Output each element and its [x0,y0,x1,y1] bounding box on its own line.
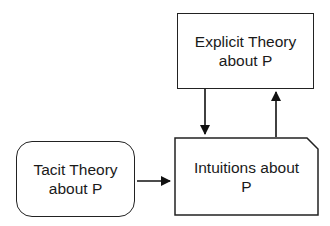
tacit-theory-label-line2: about P [49,179,102,198]
tacit-theory-label-line1: Tacit Theory [33,160,117,179]
tacit-theory-node: Tacit Theory about P [16,141,135,217]
intuitions-node: Intuitions about P [174,137,319,216]
intuitions-label-line1: Intuitions about [194,158,299,177]
intuitions-label-line2: P [241,177,251,196]
explicit-theory-label-line2: about P [219,51,272,70]
explicit-theory-node: Explicit Theory about P [177,13,314,89]
explicit-theory-label-line1: Explicit Theory [195,32,296,51]
